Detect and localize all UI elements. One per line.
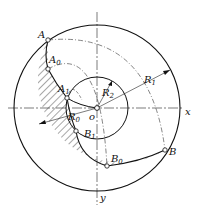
r2-arrowhead xyxy=(108,81,112,86)
r0-arrowhead xyxy=(39,120,46,124)
label-x: x xyxy=(185,106,191,117)
label-b: B xyxy=(168,146,176,157)
point-a1 xyxy=(65,96,69,100)
point-b xyxy=(163,148,167,152)
point-b1 xyxy=(74,129,78,133)
point-a0 xyxy=(46,67,50,71)
point-b0 xyxy=(105,164,109,168)
a1-to-o-curve xyxy=(67,98,97,108)
cam-diagram: A A0 A1 B1 B0 B R1 R2 R0 o x y xyxy=(0,0,204,220)
r1-arrowhead xyxy=(163,70,170,75)
label-b1: B1 xyxy=(83,128,96,141)
point-o xyxy=(95,106,100,111)
point-a xyxy=(46,38,50,42)
label-o: o xyxy=(89,111,95,122)
label-y: y xyxy=(99,192,106,203)
label-a0: A0 xyxy=(48,54,61,67)
label-a: A xyxy=(37,29,45,40)
label-r1: R1 xyxy=(143,74,156,87)
label-r2: R2 xyxy=(101,87,115,100)
